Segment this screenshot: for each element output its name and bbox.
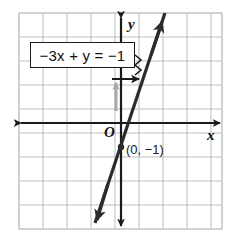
figure-background	[0, 0, 234, 238]
coordinate-graph-figure: −3x + y = −1 y x O (0, −1)	[0, 0, 234, 238]
point-marker-0-neg1	[118, 144, 124, 150]
x-axis-label: x	[207, 127, 215, 144]
origin-label: O	[104, 124, 115, 141]
y-axis-label: y	[128, 16, 135, 33]
equation-text: −3x + y = −1	[40, 47, 126, 64]
graph-canvas	[0, 0, 234, 238]
equation-callout-box: −3x + y = −1	[30, 42, 135, 68]
point-label-0-neg1: (0, −1)	[126, 142, 164, 157]
